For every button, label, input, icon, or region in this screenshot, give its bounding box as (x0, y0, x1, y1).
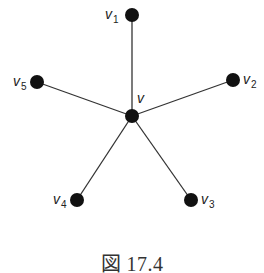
node-v1 (125, 8, 139, 22)
edges (37, 15, 233, 200)
label-v3: v3 (201, 191, 215, 210)
node-v3 (184, 193, 198, 207)
label-v4: v4 (53, 191, 67, 210)
figure-caption: 図 17.4 (0, 248, 264, 273)
label-v2: v2 (243, 71, 257, 90)
label-v: v (137, 90, 145, 106)
edge-v-v3 (132, 116, 191, 200)
edge-v-v2 (132, 80, 233, 116)
edge-v-v5 (37, 82, 132, 116)
node-v (125, 109, 139, 123)
node-v2 (226, 73, 240, 87)
edge-v-v4 (77, 116, 132, 200)
node-v5 (30, 75, 44, 89)
label-v1: v1 (105, 6, 119, 25)
node-v4 (70, 193, 84, 207)
label-v5: v5 (13, 73, 27, 92)
star-graph-diagram: v v1 v2 v3 v4 v5 (0, 0, 264, 273)
nodes (30, 8, 240, 207)
labels: v v1 v2 v3 v4 v5 (13, 6, 257, 210)
